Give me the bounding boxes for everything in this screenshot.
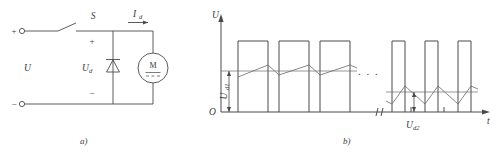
caption-a: a) [80,136,88,146]
svg-text:I: I [132,9,137,19]
switch-blade [58,23,76,31]
svg-text:d1: d1 [223,84,230,91]
ud1-arrow-down [227,107,231,112]
figure-svg: M S I d U U d + − + − [0,0,501,158]
x-axis-label: t [487,116,490,126]
continuation-ellipsis: ∙ ∙ ∙ [358,68,379,80]
y-axis-arrowhead [218,14,223,22]
caption-b: b) [343,136,351,146]
positive-terminal-node [19,28,24,33]
svg-text:d2: d2 [413,124,420,131]
pulse-left-3 [320,41,350,112]
output-voltage-label: U d [82,63,93,74]
current-arrow-head [143,20,148,24]
svg-text:U: U [219,91,229,99]
circuit-diagram: M S I d U U d + − + − [11,9,168,109]
svg-text:d: d [139,13,143,20]
origin-label: O [209,107,216,117]
motor-letter: M [149,61,156,70]
figure-root: M S I d U U d + − + − [0,0,501,158]
source-voltage-label: U [24,63,32,73]
ud2-arrow-down [412,107,416,112]
switch-label: S [91,11,96,21]
x-axis-arrowhead [482,109,490,114]
ud1-arrow-up [227,71,231,76]
y-axis-label: U [212,10,220,20]
waveform-diagram: U t O U d1 ∙ ∙ ∙ [209,10,490,131]
output-minus-sign: − [89,88,94,98]
current-label: I d [132,9,143,20]
ripple-right-group [386,86,478,104]
source-plus-sign: + [11,26,16,36]
source-minus-sign: − [11,99,16,109]
negative-terminal-node [19,101,24,106]
pulse-left-1 [238,41,268,112]
svg-text:d: d [89,67,93,74]
pulse-left-2 [279,41,309,112]
ud2-label: U d2 [406,120,420,131]
output-plus-sign: + [89,36,94,46]
x-axis-ticks [411,107,444,112]
